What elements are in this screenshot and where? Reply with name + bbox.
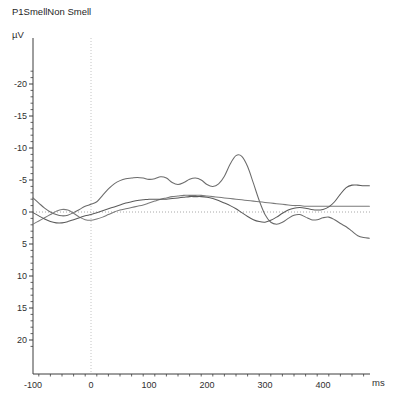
erp-waveform-chart: P1SmellNon Smell µV ms -20-15-10-5051015…	[0, 0, 393, 405]
y-axis-tick-label: -20	[1, 79, 27, 89]
page-title: P1SmellNon Smell	[12, 7, 91, 17]
x-axis-tick-label: 0	[71, 380, 111, 390]
axis-layer	[29, 38, 370, 377]
x-axis-tick-label: 400	[303, 380, 343, 390]
y-axis-tick-label: -15	[1, 111, 27, 121]
y-axis-tick-label: 10	[1, 271, 27, 281]
plot-canvas	[0, 0, 393, 405]
y-axis-unit-label: µV	[12, 30, 24, 40]
x-axis-tick-label: 100	[129, 380, 169, 390]
series-line-2	[33, 185, 369, 223]
y-axis-tick-label: -10	[1, 143, 27, 153]
series-layer	[33, 155, 369, 238]
y-axis-tick-label: 0	[1, 207, 27, 217]
y-axis-tick-label: 15	[1, 303, 27, 313]
x-axis-tick-label: -100	[13, 380, 53, 390]
y-axis-tick-label: 5	[1, 239, 27, 249]
y-axis-tick-label: -5	[1, 175, 27, 185]
x-axis-tick-label: 200	[187, 380, 227, 390]
x-axis-unit-label: ms	[372, 378, 385, 388]
y-axis-tick-label: 20	[1, 335, 27, 345]
x-axis-tick-label: 300	[245, 380, 285, 390]
